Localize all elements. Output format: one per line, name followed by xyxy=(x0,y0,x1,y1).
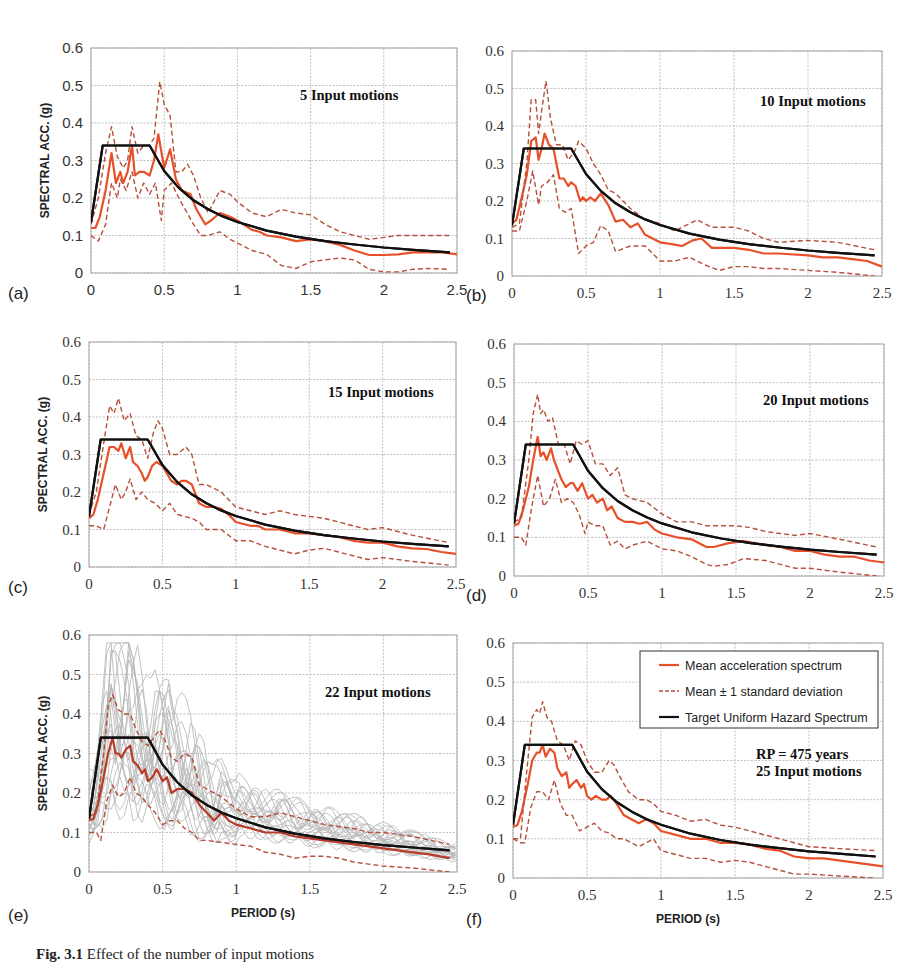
y-tick-label: 0.4 xyxy=(62,114,83,131)
chart-panel-c: 00.10.20.30.40.50.600.511.522.5SPECTRAL … xyxy=(36,334,465,592)
chart-subtitle: 25 Input motions xyxy=(756,763,862,779)
y-tick-label: 0.1 xyxy=(485,231,504,247)
series-std xyxy=(91,172,450,272)
x-tick-label: 1.5 xyxy=(727,585,746,601)
x-axis-label: PERIOD (s) xyxy=(231,906,295,920)
y-tick-label: 0.2 xyxy=(485,193,504,209)
panel-label-c: (c) xyxy=(8,578,28,598)
y-tick-label: 0.6 xyxy=(487,336,506,352)
y-tick-label: 0 xyxy=(498,870,506,886)
x-tick-label: 0 xyxy=(510,585,518,601)
chart-panel-f: 00.10.20.30.40.50.600.511.522.5PERIOD (s… xyxy=(486,635,892,926)
legend-item-label: Mean ± 1 standard deviation xyxy=(685,685,843,699)
x-tick-label: 1 xyxy=(656,285,664,301)
x-tick-label: 2 xyxy=(806,585,814,601)
x-tick-label: 1 xyxy=(658,585,666,601)
x-tick-label: 0 xyxy=(509,887,517,903)
x-tick-label: 0 xyxy=(85,576,93,592)
x-tick-label: 2 xyxy=(379,576,387,592)
y-tick-label: 0.4 xyxy=(485,118,504,134)
y-tick-label: 0.5 xyxy=(487,375,506,391)
x-tick-label: 0.5 xyxy=(579,585,598,601)
x-tick-label: 2.5 xyxy=(447,281,468,298)
y-tick-label: 0.1 xyxy=(486,831,505,847)
x-tick-label: 1.5 xyxy=(300,881,319,897)
y-axis-label: SPECTRAL ACC. (g) xyxy=(36,397,50,512)
y-tick-label: 0.5 xyxy=(62,667,81,683)
series-mean xyxy=(91,134,457,255)
y-tick-label: 0.4 xyxy=(62,409,81,425)
panel-label-d: (d) xyxy=(466,586,487,606)
series-lines xyxy=(91,82,457,272)
figure-caption: Fig. 3.1 Effect of the number of input m… xyxy=(36,946,314,963)
series-mean xyxy=(512,134,882,267)
legend-item-label: Target Uniform Hazard Spectrum xyxy=(685,711,868,725)
series-std xyxy=(514,476,877,577)
x-tick-label: 1.5 xyxy=(300,576,319,592)
series-mean xyxy=(514,437,884,563)
y-tick-label: 0.1 xyxy=(62,227,83,244)
panel-label-a: (a) xyxy=(8,284,29,304)
y-tick-label: 0.6 xyxy=(62,627,81,643)
y-tick-label: 0.2 xyxy=(62,785,81,801)
y-tick-label: 0.4 xyxy=(487,413,506,429)
y-axis-label: SPECTRAL ACC. (g) xyxy=(36,696,50,811)
x-tick-label: 2.5 xyxy=(873,285,892,301)
x-tick-label: 1 xyxy=(232,881,240,897)
y-tick-label: 0.2 xyxy=(487,491,506,507)
series-lines xyxy=(512,81,882,276)
series-std xyxy=(513,780,876,878)
y-tick-label: 0.3 xyxy=(486,753,505,769)
caption-text: Effect of the number of input motions xyxy=(87,946,314,962)
y-tick-label: 0.2 xyxy=(62,189,83,206)
chart-title: 10 Input motions xyxy=(760,93,866,109)
y-tick-label: 0.1 xyxy=(62,825,81,841)
x-tick-label: 1 xyxy=(232,576,240,592)
x-tick-label: 2.5 xyxy=(448,881,467,897)
y-tick-label: 0.2 xyxy=(486,792,505,808)
x-tick-label: 2 xyxy=(380,281,388,298)
x-tick-label: 0.5 xyxy=(153,881,172,897)
y-tick-label: 0.1 xyxy=(62,522,81,538)
y-tick-label: 0.3 xyxy=(62,746,81,762)
x-axis-label: PERIOD (s) xyxy=(656,912,720,926)
series-std xyxy=(512,171,875,276)
y-tick-label: 0.3 xyxy=(62,447,81,463)
y-tick-label: 0.3 xyxy=(487,452,506,468)
y-tick-label: 0.2 xyxy=(62,484,81,500)
caption-label: Fig. 3.1 xyxy=(36,946,83,962)
y-tick-label: 0.3 xyxy=(62,152,83,169)
y-tick-label: 0.4 xyxy=(486,713,505,729)
y-tick-label: 0.6 xyxy=(485,43,504,59)
y-tick-label: 0.6 xyxy=(62,334,81,350)
series-lines xyxy=(89,643,456,872)
x-tick-label: 1 xyxy=(233,281,241,298)
y-tick-label: 0.5 xyxy=(485,81,504,97)
legend-item-label: Mean acceleration spectrum xyxy=(685,659,842,673)
y-tick-label: 0.6 xyxy=(486,635,505,651)
x-tick-label: 1 xyxy=(657,887,665,903)
y-tick-label: 0 xyxy=(75,264,83,281)
series-std xyxy=(514,394,877,547)
y-axis-label: SPECTRAL ACC. (g) xyxy=(38,103,52,218)
x-tick-label: 0.5 xyxy=(154,281,175,298)
x-tick-label: 2.5 xyxy=(874,887,893,903)
series-lines xyxy=(89,398,456,565)
y-tick-label: 0.4 xyxy=(62,706,81,722)
x-tick-label: 1.5 xyxy=(300,281,321,298)
series-mean xyxy=(89,443,456,554)
grid xyxy=(89,342,456,567)
x-tick-label: 1.5 xyxy=(726,887,745,903)
panel-label-b: (b) xyxy=(466,286,487,306)
chart-title: 5 Input motions xyxy=(300,87,399,103)
y-tick-label: 0.1 xyxy=(487,529,506,545)
chart-title: RP = 475 years xyxy=(756,746,849,762)
x-tick-label: 0.5 xyxy=(577,285,596,301)
chart-panel-b: 00.10.20.30.40.50.600.511.522.510 Input … xyxy=(485,43,891,301)
chart-panel-d: 00.10.20.30.40.50.600.511.522.520 Input … xyxy=(487,336,893,601)
series-lines xyxy=(514,394,884,576)
y-tick-label: 0 xyxy=(74,864,82,880)
chart-title: 15 Input motions xyxy=(328,384,434,400)
